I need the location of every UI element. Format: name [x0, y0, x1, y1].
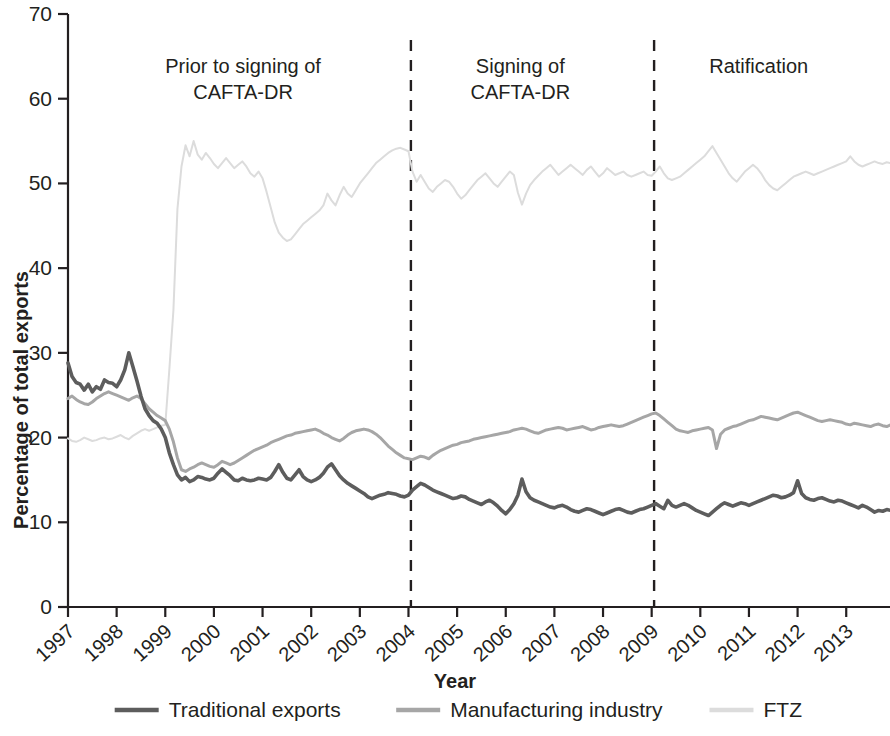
y-tick-label: 10: [29, 510, 52, 533]
legend-label-ftz: FTZ: [763, 698, 802, 721]
y-tick-label: 0: [40, 595, 52, 618]
legend-label-traditional-exports: Traditional exports: [169, 698, 341, 721]
y-tick-label: 30: [29, 341, 52, 364]
y-tick-label: 70: [29, 2, 52, 25]
annotation-prior-to-signing: Prior to signing of: [165, 55, 321, 77]
y-axis-title: Percentage of total exports: [10, 271, 32, 529]
x-axis-title: Year: [434, 670, 476, 692]
annotation-prior-to-signing: CAFTA-DR: [193, 81, 293, 103]
chart-figure: 010203040506070 199719981999200020012002…: [0, 0, 890, 736]
annotation-signing: Signing of: [476, 55, 565, 77]
y-tick-label: 60: [29, 87, 52, 110]
annotation-signing: CAFTA-DR: [471, 81, 571, 103]
annotation-ratification: Ratification: [709, 55, 808, 77]
y-tick-label: 50: [29, 171, 52, 194]
y-tick-label: 40: [29, 256, 52, 279]
y-tick-label: 20: [29, 426, 52, 449]
legend-label-manufacturing-industry: Manufacturing industry: [450, 698, 663, 721]
line-chart: 010203040506070 199719981999200020012002…: [0, 0, 890, 736]
